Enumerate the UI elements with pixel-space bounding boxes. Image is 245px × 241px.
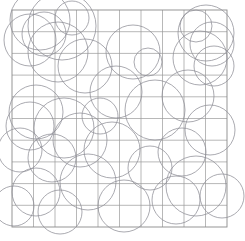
circles-grid-plot xyxy=(0,0,245,241)
figure-container xyxy=(0,0,245,241)
